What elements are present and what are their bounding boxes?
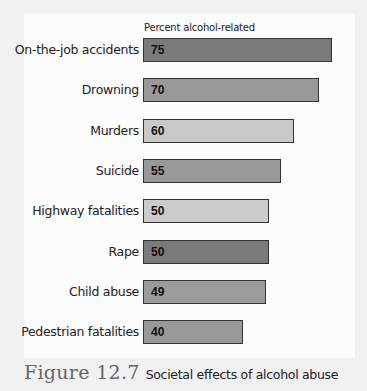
value-label: 60 [151,124,164,138]
bar: 40 [143,320,243,344]
category-label: Pedestrian fatalities [21,324,139,339]
chart-panel [24,14,355,358]
bar: 60 [143,119,294,143]
category-label: Suicide [96,163,139,178]
bar-row: Child abuse49 [0,280,367,304]
figure-caption: Figure 12.7Societal effects of alcohol a… [24,361,338,383]
bar-row: On-the-job accidents75 [0,38,367,62]
bar-row: Murders60 [0,119,367,143]
value-label: 50 [151,245,164,259]
value-label: 70 [151,83,164,97]
bar: 55 [143,159,281,183]
bar: 50 [143,240,269,264]
bar-row: Highway fatalities50 [0,199,367,223]
value-label: 55 [151,164,164,178]
bar: 49 [143,280,266,304]
bar: 70 [143,78,319,102]
value-label: 50 [151,204,164,218]
category-label: Drowning [82,82,139,97]
bar: 75 [143,38,332,62]
bar-row: Pedestrian fatalities40 [0,320,367,344]
category-label: On-the-job accidents [15,42,139,57]
category-label: Child abuse [69,284,139,299]
axis-title: Percent alcohol-related [144,22,255,33]
category-label: Highway fatalities [32,203,139,218]
bar-row: Rape50 [0,240,367,264]
value-label: 75 [151,43,164,57]
bar-row: Drowning70 [0,78,367,102]
value-label: 40 [151,325,164,339]
category-label: Rape [109,244,140,259]
caption-text: Societal effects of alcohol abuse [146,367,339,382]
bar: 50 [143,199,269,223]
bar-row: Suicide55 [0,159,367,183]
figure-number: Figure 12.7 [24,361,140,383]
value-label: 49 [151,285,164,299]
category-label: Murders [90,123,139,138]
